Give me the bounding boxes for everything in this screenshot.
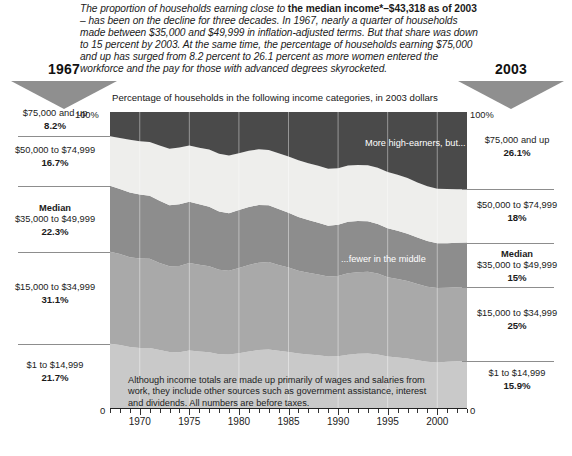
x-axis-tick	[348, 409, 349, 413]
x-axis-label-1980: 1980	[228, 416, 250, 427]
legend-item-name: $1 to $14,999	[462, 368, 572, 379]
y-axis-top-label-right: 100%	[470, 110, 494, 120]
legend-item-value: 15%	[462, 272, 572, 283]
intro-text-part2: – has been on the decline for three deca…	[80, 15, 478, 74]
year-label-right: 2003	[457, 61, 565, 77]
legend-item-name: $1 to $14,999	[0, 360, 110, 371]
x-axis-tick	[457, 409, 458, 413]
chart-footnote: Although income totals are made up prima…	[128, 375, 428, 409]
x-axis-tick	[289, 409, 290, 415]
legend-item-value: 31.1%	[0, 294, 110, 305]
x-axis-label-1975: 1975	[178, 416, 200, 427]
x-axis-tick	[219, 409, 220, 413]
legend-item-name: $50,000 to $74,999	[0, 145, 110, 156]
x-axis-label-1970: 1970	[129, 416, 151, 427]
x-axis-tick	[199, 409, 200, 413]
x-axis-tick	[427, 409, 428, 413]
x-axis-tick	[368, 409, 369, 413]
chart-caption: Percentage of households in the followin…	[112, 92, 472, 103]
x-axis-tick	[239, 409, 240, 415]
down-triangle-icon-left	[11, 81, 117, 109]
year-label-left: 1967	[10, 61, 118, 77]
x-axis-tick	[447, 409, 448, 413]
legend-median-tag: Median	[462, 249, 572, 260]
x-axis-tick	[358, 409, 359, 413]
x-axis-tick	[338, 409, 339, 415]
x-axis-tick	[130, 409, 131, 413]
y-axis-zero-label-left: 0	[100, 405, 105, 416]
x-axis-label-2000: 2000	[426, 416, 448, 427]
legend-item-value: 25%	[462, 320, 572, 331]
x-axis-tick	[170, 409, 171, 413]
x-axis-tick	[150, 409, 151, 413]
legend-item--1-to-14-999: $1 to $14,99915.9%	[462, 368, 572, 391]
legend-item-value: 18%	[462, 212, 572, 223]
legend-item-name: $15,000 to $34,999	[0, 282, 110, 293]
legend-item--15-000-to-34-999: $15,000 to $34,99931.1%	[0, 282, 110, 305]
x-axis-tick	[279, 409, 280, 413]
legend-item-value: 21.7%	[0, 372, 110, 383]
x-axis-label-1990: 1990	[327, 416, 349, 427]
legend-separator	[462, 243, 554, 244]
legend-item--50-000-to-74-999: $50,000 to $74,99916.7%	[0, 145, 110, 168]
x-axis-tick	[269, 409, 270, 413]
legend-item-value: 15.9%	[462, 380, 572, 391]
legend-separator	[18, 136, 110, 137]
legend-item-name: $35,000 to $49,999	[462, 260, 572, 271]
intro-paragraph: The proportion of households earning clo…	[80, 3, 480, 74]
x-axis-labels: 1970197519801985199019952000	[0, 416, 572, 430]
legend-separator	[18, 252, 110, 253]
x-axis-tick	[179, 409, 180, 413]
intro-text-bold: the median income*–$43,318 as of 2003	[288, 3, 477, 14]
legend-item-name: $50,000 to $74,999	[462, 200, 572, 211]
legend-item-value: 8.2%	[0, 120, 110, 131]
legend-item--1-to-14-999: $1 to $14,99921.7%	[0, 360, 110, 383]
year-header-2003: 2003	[457, 61, 565, 109]
legend-item-value: 16.7%	[0, 157, 110, 168]
annotation-more-high-earners: More high-earners, but...	[365, 138, 466, 148]
down-triangle-icon-right	[458, 81, 564, 109]
x-axis-tick	[189, 409, 190, 415]
x-axis-tick	[467, 409, 468, 413]
legend-item-name: $75,000 and up	[462, 135, 572, 146]
legend-separator	[462, 189, 554, 190]
legend-median-tag: Median	[0, 203, 110, 214]
x-axis-tick	[259, 409, 260, 413]
legend-item--50-000-to-74-999: $50,000 to $74,99918%	[462, 200, 572, 223]
legend-item-name: $15,000 to $34,999	[462, 308, 572, 319]
x-axis-ticks	[110, 409, 467, 414]
legend-separator	[462, 361, 554, 362]
x-axis-tick	[110, 409, 111, 413]
legend-separator	[18, 344, 110, 345]
legend-item--35-000-to-49-999: Median$35,000 to $49,99922.3%	[0, 203, 110, 237]
x-axis-label-1995: 1995	[377, 416, 399, 427]
legend-item--75-000-and-up: $75,000 and up8.2%	[0, 108, 110, 131]
legend-item--35-000-to-49-999: Median$35,000 to $49,99915%	[462, 249, 572, 283]
legend-separator	[18, 186, 110, 187]
x-axis-tick	[140, 409, 141, 415]
x-axis-tick	[388, 409, 389, 415]
x-axis-tick	[398, 409, 399, 413]
x-axis-tick	[298, 409, 299, 413]
legend-separator	[462, 287, 554, 288]
x-axis-tick	[229, 409, 230, 413]
x-axis-tick	[318, 409, 319, 413]
year-header-1967: 1967	[10, 61, 118, 109]
x-axis-tick	[408, 409, 409, 413]
x-axis-tick	[249, 409, 250, 413]
x-axis-tick	[437, 409, 438, 415]
x-axis-tick	[378, 409, 379, 413]
legend-item-name: $75,000 and up	[0, 108, 110, 119]
legend-item--75-000-and-up: $75,000 and up26.1%	[462, 135, 572, 158]
legend-item--15-000-to-34-999: $15,000 to $34,99925%	[462, 308, 572, 331]
x-axis-label-1985: 1985	[277, 416, 299, 427]
intro-text-part1: The proportion of households earning clo…	[80, 3, 288, 14]
y-axis-zero-label-right: 0	[470, 405, 475, 416]
annotation-fewer-in-middle: ...fewer in the middle	[341, 254, 426, 264]
legend-item-value: 26.1%	[462, 147, 572, 158]
x-axis-tick	[120, 409, 121, 413]
x-axis-tick	[308, 409, 309, 413]
x-axis-tick	[417, 409, 418, 413]
x-axis-tick	[209, 409, 210, 413]
x-axis-tick	[160, 409, 161, 413]
